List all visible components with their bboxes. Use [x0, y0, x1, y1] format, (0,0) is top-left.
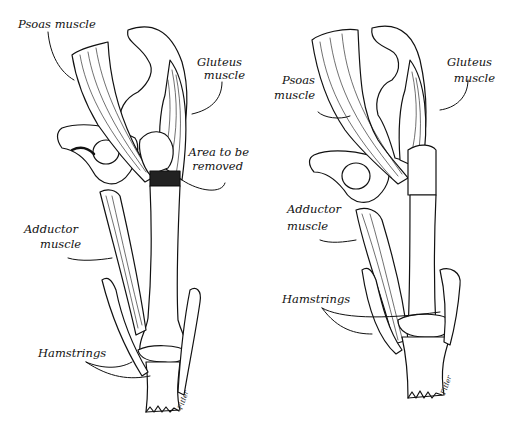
left-removal-area [150, 171, 180, 186]
label-area-left-1: Area to be [185, 146, 249, 159]
label-gluteus-left-2: muscle [190, 69, 245, 82]
label-area-left-2: removed [185, 160, 243, 173]
label-hamstrings-left: Hamstrings [38, 347, 106, 360]
left-tibia [146, 362, 180, 412]
left-femur [140, 186, 187, 352]
label-adductor-left-1: Adductor [24, 223, 78, 236]
label-gluteus-right-2: muscle [440, 72, 495, 85]
label-psoas-right-2: muscle [274, 89, 315, 102]
label-hamstrings-right: Hamstrings [282, 293, 350, 306]
label-psoas-left: Psoas muscle [18, 18, 96, 31]
label-adductor-left-2: muscle [40, 238, 81, 251]
right-femur [408, 195, 436, 332]
right-femur-upper [408, 145, 436, 195]
label-psoas-right-1: Psoas [282, 74, 315, 87]
label-gluteus-right-1: Gluteus [440, 56, 492, 69]
right-knee [398, 314, 452, 337]
anatomy-drawing: Fitler Fitler [0, 0, 515, 438]
label-adductor-right-2: muscle [287, 220, 328, 233]
label-adductor-right-1: Adductor [287, 203, 341, 216]
